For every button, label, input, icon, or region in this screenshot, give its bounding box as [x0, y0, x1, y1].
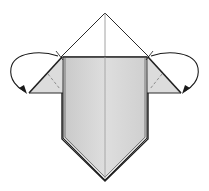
diagram-canvas	[0, 0, 209, 191]
left-flap	[29, 57, 63, 93]
body	[62, 57, 148, 181]
right-flap	[147, 57, 181, 93]
top-triangle	[61, 13, 149, 57]
origami-diagram: Fold both side flaps behind along dashed…	[0, 0, 209, 191]
